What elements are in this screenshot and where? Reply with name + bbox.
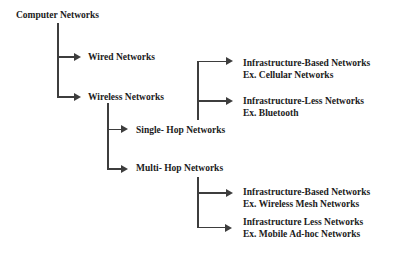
node-wired-networks: Wired Networks <box>88 51 155 63</box>
network-taxonomy-diagram: Computer Networks Wired Networks Wireles… <box>0 0 397 254</box>
connector-wireless-to-singlehop <box>108 129 121 131</box>
connector-multihop-trunk <box>197 177 199 228</box>
node-singlehop-infrastructure-less: Infrastructure-Less Networks Ex. Bluetoo… <box>243 95 364 119</box>
node-example: Ex. Mobile Ad-hoc Networks <box>243 228 363 240</box>
connector-root-trunk <box>57 23 59 98</box>
node-title: Infrastructure-Less Networks <box>243 96 364 106</box>
node-computer-networks: Computer Networks <box>16 9 99 21</box>
node-wireless-networks: Wireless Networks <box>88 91 164 103</box>
node-example: Ex. Wireless Mesh Networks <box>243 198 370 210</box>
node-title: Infrastructure-Based Networks <box>243 58 370 68</box>
arrow-to-mh-infra-based-icon <box>226 189 233 197</box>
node-multi-hop-networks: Multi- Hop Networks <box>136 162 223 174</box>
arrow-to-wireless-icon <box>74 93 81 101</box>
arrow-to-mh-infra-less-icon <box>225 224 232 232</box>
node-title: Infrastructure Less Networks <box>243 217 363 227</box>
connector-singlehop-to-infra-less <box>198 100 226 102</box>
node-singlehop-infrastructure-based: Infrastructure-Based Networks Ex. Cellul… <box>243 57 370 81</box>
node-multihop-infrastructure-less: Infrastructure Less Networks Ex. Mobile … <box>243 216 363 240</box>
arrow-to-sh-infra-based-icon <box>226 57 233 65</box>
connector-root-to-wired <box>58 56 74 58</box>
node-multihop-infrastructure-based: Infrastructure-Based Networks Ex. Wirele… <box>243 186 370 210</box>
connector-singlehop-trunk <box>197 61 199 120</box>
node-title: Infrastructure-Based Networks <box>243 187 370 197</box>
arrow-to-wired-icon <box>74 53 81 61</box>
arrow-to-multi-hop-icon <box>121 165 128 173</box>
node-single-hop-networks: Single- Hop Networks <box>136 124 225 136</box>
connector-wireless-to-multihop <box>108 168 121 170</box>
connector-wireless-trunk <box>107 103 109 170</box>
connector-multihop-to-infra-based <box>198 192 226 194</box>
connector-multihop-to-infra-less <box>198 227 225 229</box>
arrow-to-single-hop-icon <box>121 125 128 133</box>
arrow-to-sh-infra-less-icon <box>226 97 233 105</box>
connector-root-to-wireless <box>58 96 74 98</box>
node-example: Ex. Bluetooth <box>243 107 364 119</box>
connector-singlehop-to-infra-based <box>198 61 226 63</box>
node-example: Ex. Cellular Networks <box>243 69 370 81</box>
